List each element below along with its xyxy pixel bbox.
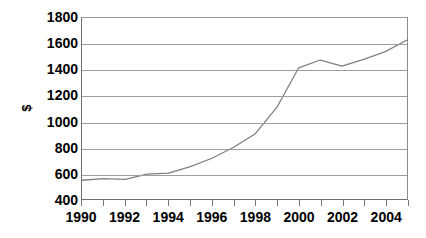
gridline (82, 175, 407, 176)
y-axis-tick-label: 1200 (30, 88, 78, 102)
y-axis-tick-label: 800 (30, 141, 78, 155)
gridline (82, 123, 407, 124)
x-axis-tick (125, 200, 126, 206)
x-axis-tick (146, 200, 147, 206)
x-axis-tick (299, 200, 300, 206)
x-axis-tick (321, 200, 322, 206)
x-axis-tick-label: 2004 (371, 209, 402, 226)
x-axis-tick (190, 200, 191, 206)
x-axis-tick-label: 1998 (240, 209, 271, 226)
x-axis-tick (81, 200, 82, 206)
y-axis-tick-label: 1000 (30, 115, 78, 129)
x-axis-tick-label: 1992 (109, 209, 140, 226)
gridline (82, 70, 407, 71)
x-axis-tick (234, 200, 235, 206)
gridline (82, 96, 407, 97)
x-axis-tick (364, 200, 365, 206)
x-axis-tick-labels: 19901992199419961998200020022004 (0, 209, 426, 235)
x-axis-tick-label: 1996 (196, 209, 227, 226)
y-axis-tick-label: 1600 (30, 36, 78, 50)
x-axis-tick-label: 1994 (153, 209, 184, 226)
x-axis-tick (212, 200, 213, 206)
x-axis-tick (408, 200, 409, 206)
line-chart: $ 18001600140012001000800600400 19901992… (0, 0, 426, 238)
y-axis-tick-label: 1400 (30, 62, 78, 76)
gridline (82, 44, 407, 45)
y-axis-tick-labels: 18001600140012001000800600400 (30, 10, 78, 206)
plot-area (81, 17, 408, 200)
x-axis-tick-label: 2000 (283, 209, 314, 226)
x-axis-tick (168, 200, 169, 206)
gridline (82, 149, 407, 150)
y-axis-tick-label: 400 (30, 193, 78, 207)
y-axis-tick-label: 600 (30, 167, 78, 181)
x-axis-tick (277, 200, 278, 206)
series-canvas (82, 18, 407, 199)
x-axis-tick (103, 200, 104, 206)
x-axis-tick (255, 200, 256, 206)
x-axis-tick (386, 200, 387, 206)
x-axis-tick-label: 2002 (327, 209, 358, 226)
x-axis-tick-label: 1990 (65, 209, 96, 226)
y-axis-tick-label: 1800 (30, 10, 78, 24)
x-axis-ticks (81, 200, 408, 207)
series-line-dollars (82, 40, 407, 180)
x-axis-tick (343, 200, 344, 206)
